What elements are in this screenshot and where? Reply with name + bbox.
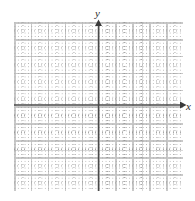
y-axis-label: y bbox=[95, 8, 100, 19]
y-axis-arrowhead bbox=[95, 20, 102, 27]
x-axis-label: x bbox=[186, 101, 191, 112]
axes-layer bbox=[0, 0, 195, 201]
coordinate-grid-figure: y x bbox=[0, 0, 195, 201]
